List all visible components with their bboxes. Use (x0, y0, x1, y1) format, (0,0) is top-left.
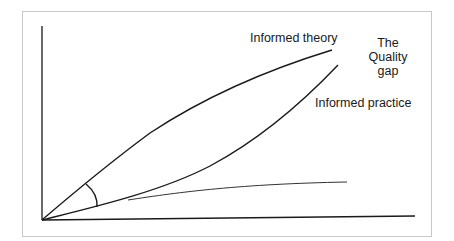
quality-gap-label-line3: gap (363, 64, 413, 78)
quality-gap-label-line1: The (363, 36, 413, 50)
quality-gap-label-line2: Quality (363, 50, 413, 64)
actual-practice-line (128, 182, 347, 200)
informed-theory-label: Informed theory (250, 31, 338, 45)
angle-arc (86, 184, 97, 207)
informed-theory-curve (42, 50, 332, 220)
informed-practice-label: Informed practice (315, 96, 412, 110)
informed-practice-curve (42, 65, 338, 220)
quality-gap-label: The Quality gap (363, 36, 413, 78)
x-axis (42, 216, 415, 220)
